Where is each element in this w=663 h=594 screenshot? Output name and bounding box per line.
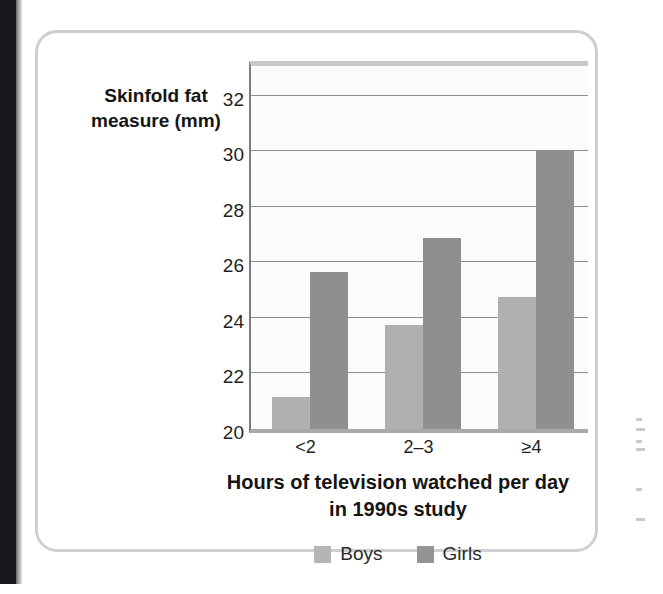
bar-boys-2	[498, 297, 536, 429]
bar-boys-1	[385, 325, 423, 429]
x-axis-title-line-1: Hours of television watched per day	[227, 471, 569, 493]
margin-note-fragment	[636, 518, 645, 521]
y-axis-tick-labels: 20222426283032	[200, 61, 244, 433]
y-axis-tick-label: 32	[210, 89, 244, 111]
x-axis-tick-labels: <22–3≥4	[249, 437, 588, 463]
page-margin-notes	[636, 418, 658, 558]
chart-legend: BoysGirls	[178, 543, 618, 565]
legend-label: Girls	[443, 543, 482, 565]
bars-layer	[253, 71, 588, 429]
margin-note-fragment	[636, 448, 645, 451]
margin-note-fragment	[636, 488, 642, 491]
y-axis-tick-label: 24	[210, 311, 244, 333]
legend-swatch-icon	[417, 546, 434, 563]
legend-label: Boys	[340, 543, 382, 565]
page-scan-edge-shadow	[16, 0, 23, 594]
bar-boys-0	[272, 397, 310, 429]
page-bottom-margin	[0, 584, 663, 594]
y-axis-tick-label: 26	[210, 255, 244, 277]
legend-swatch-icon	[314, 546, 331, 563]
margin-note-fragment	[636, 418, 642, 421]
x-axis-title-line-2: in 1990s study	[178, 496, 618, 523]
y-axis-tick-label: 20	[210, 422, 244, 444]
y-axis-tick-label: 22	[210, 366, 244, 388]
x-axis-title: Hours of television watched per day in 1…	[178, 469, 618, 523]
x-axis-tick-label: 2–3	[403, 437, 433, 458]
bar-girls-1	[423, 238, 461, 429]
x-axis-tick-label: <2	[295, 437, 316, 458]
figure-card: Skinfold fat measure (mm) 20222426283032…	[35, 30, 598, 552]
page-scan-edge	[0, 0, 16, 594]
y-axis-tick-label: 28	[210, 200, 244, 222]
bar-girls-0	[310, 272, 348, 429]
y-axis-tick-label: 30	[210, 144, 244, 166]
plot-area	[249, 61, 588, 433]
bar-girls-2	[536, 150, 574, 429]
legend-item-girls: Girls	[417, 543, 482, 565]
legend-item-boys: Boys	[314, 543, 382, 565]
y-axis-title-line-1: Skinfold fat	[104, 85, 207, 106]
margin-note-fragment	[636, 440, 642, 443]
x-axis-tick-label: ≥4	[522, 437, 542, 458]
margin-note-fragment	[636, 428, 645, 431]
